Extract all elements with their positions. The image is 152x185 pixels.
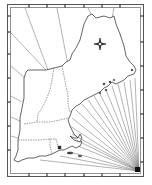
rhumb-line: [72, 118, 139, 171]
new-england-map: [0, 0, 152, 185]
island-maine-2: [109, 81, 111, 83]
rhumb-hub: [135, 167, 140, 172]
island-maine-5: [99, 92, 101, 94]
island-maine-3: [113, 79, 115, 81]
island-ri: [58, 146, 61, 149]
island-marthas-vineyard: [67, 152, 73, 154]
rhumb-line: [100, 94, 139, 171]
rhumb-line: [82, 104, 139, 171]
island-maine-1: [103, 83, 105, 85]
island-nantucket: [78, 155, 82, 157]
rhumb-hub-marker: [135, 167, 140, 172]
rhumb-line: [70, 152, 139, 171]
map-canvas: [0, 0, 152, 185]
island-maine-6: [131, 69, 133, 71]
